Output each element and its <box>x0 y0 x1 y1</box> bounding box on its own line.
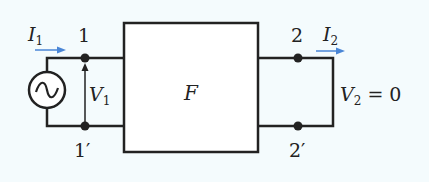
current-i2-label: I2 <box>322 23 338 48</box>
node-1-prime <box>81 122 90 131</box>
port-2-prime-label: 2′ <box>289 139 305 161</box>
port-1-prime-label: 1′ <box>74 139 90 161</box>
block-label: F <box>183 81 199 105</box>
port-2-label: 2 <box>291 24 303 46</box>
circuit-canvas: I1 1 1′ V1 F 2 2′ I2 V2 = 0 <box>0 0 429 182</box>
port-1-label: 1 <box>78 24 90 46</box>
voltage-v1-arrow-icon <box>82 63 89 122</box>
two-port-circuit-diagram: I1 1 1′ V1 F 2 2′ I2 V2 = 0 <box>0 0 429 182</box>
node-2-prime <box>294 122 303 131</box>
output-short-circuit-wiring <box>258 58 333 126</box>
current-i1-label: I1 <box>27 23 43 48</box>
node-2 <box>294 54 303 63</box>
voltage-v2-label: V2 = 0 <box>340 83 401 108</box>
node-1 <box>81 54 90 63</box>
voltage-v1-label: V1 <box>89 83 110 108</box>
current-i2-arrow-icon <box>316 48 345 55</box>
ac-source-icon <box>29 72 65 108</box>
